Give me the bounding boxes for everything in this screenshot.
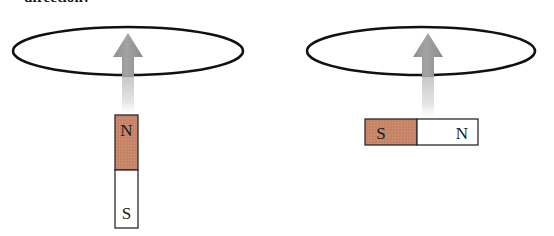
bar-magnet-right: S N	[365, 119, 478, 145]
magnet-pole-label-north-left: N	[120, 121, 132, 140]
magnet-pole-label-south-left: S	[122, 204, 131, 223]
magnet-pole-south-right	[365, 119, 417, 145]
right-panel: S N	[307, 27, 535, 145]
clipped-caption-text: direction?	[24, 0, 91, 6]
motion-arrow-right	[413, 33, 443, 76]
left-panel: N S	[13, 27, 243, 228]
figure-canvas: direction?	[0, 0, 554, 236]
motion-arrow-left	[113, 33, 143, 76]
magnet-pole-label-north-right: N	[456, 124, 468, 143]
motion-arrow-tail-right	[422, 72, 434, 122]
bar-magnet-left: N S	[115, 115, 138, 228]
motion-arrow-tail-left	[122, 72, 134, 118]
magnet-pole-label-south-right: S	[376, 124, 385, 143]
magnet-pole-north-right	[417, 119, 478, 145]
magnet-loop-diagram: N S S N	[0, 0, 554, 236]
